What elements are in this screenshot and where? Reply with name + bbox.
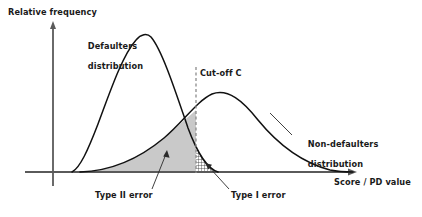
type-1-error-label: Type I error [231,190,286,200]
y-axis [50,21,56,186]
type-2-error-label: Type II error [95,190,153,200]
chart-figure: Relative frequency Defaulters distributi… [0,0,422,217]
cutoff-label: Cut-off C [200,68,242,78]
type-1-error-leader [205,163,229,189]
defaulters-label-line1: Defaulters [88,41,137,51]
nondefaulters-label-line1: Non-defaulters [308,139,379,149]
nondefaulters-distribution-label: Non-defaulters distribution [296,129,378,179]
nondefaulters-leader [270,113,292,135]
defaulters-label-line2: distribution [88,61,143,71]
defaulters-distribution-label: Defaulters distribution [76,31,143,81]
nondefaulters-label-line2: distribution [308,159,363,169]
x-axis-label: Score / PD value [334,177,411,187]
y-axis-arrow-icon [50,21,56,29]
y-axis-label: Relative frequency [8,7,97,17]
